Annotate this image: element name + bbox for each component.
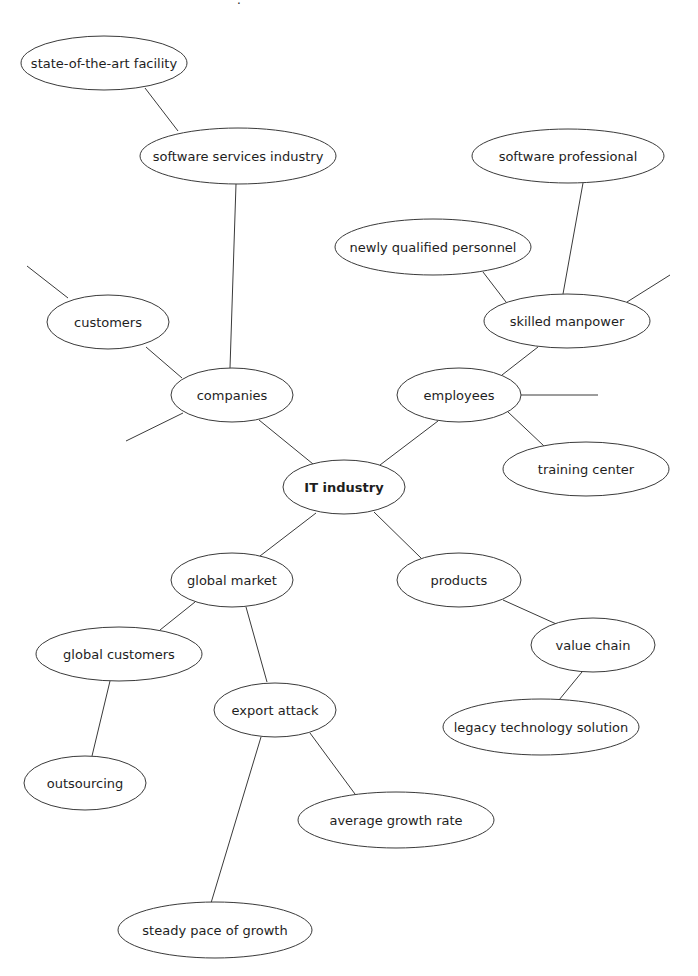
edge-employees-to-it-industry: [380, 421, 438, 465]
node-export-attack[interactable]: export attack: [214, 683, 336, 737]
node-label: employees: [424, 388, 495, 403]
node-label: global market: [187, 573, 277, 588]
node-employees[interactable]: employees: [397, 368, 521, 422]
node-it-industry[interactable]: IT industry: [283, 460, 405, 514]
node-legacy-technology-solution[interactable]: legacy technology solution: [443, 699, 639, 755]
node-global-market[interactable]: global market: [171, 553, 293, 607]
node-label: training center: [538, 462, 635, 477]
node-label: legacy technology solution: [454, 720, 629, 735]
edge-software-services-industry-to-companies: [230, 184, 236, 368]
node-label: newly qualified personnel: [350, 240, 517, 255]
mind-map-canvas: state-of-the-art facilitysoftware servic…: [0, 0, 698, 976]
node-label: skilled manpower: [510, 314, 625, 329]
node-training-center[interactable]: training center: [503, 442, 669, 496]
dangling-edge-customers: [27, 266, 68, 298]
node-label: customers: [74, 315, 142, 330]
node-state-of-the-art-facility[interactable]: state-of-the-art facility: [21, 36, 187, 90]
edge-newly-qualified-personnel-to-skilled-manpower: [483, 272, 506, 302]
dangling-edge-skilled-manpower: [627, 275, 670, 302]
cropped-text-fragment: ·: [237, 0, 241, 11]
edge-skilled-manpower-to-employees: [502, 347, 538, 375]
node-label: outsourcing: [47, 776, 124, 791]
node-label: software services industry: [153, 149, 324, 164]
edge-it-industry-to-global-market: [260, 513, 316, 556]
node-label: average growth rate: [329, 813, 462, 828]
node-label: steady pace of growth: [142, 923, 287, 938]
edge-global-customers-to-outsourcing: [92, 681, 110, 756]
edge-companies-to-it-industry: [259, 420, 313, 464]
node-skilled-manpower[interactable]: skilled manpower: [484, 294, 650, 348]
node-steady-pace-of-growth[interactable]: steady pace of growth: [118, 902, 312, 958]
node-label: companies: [197, 388, 268, 403]
node-average-growth-rate[interactable]: average growth rate: [298, 792, 494, 848]
edge-state-of-the-art-facility-to-software-services-industry: [145, 88, 178, 131]
node-customers[interactable]: customers: [47, 295, 169, 349]
node-global-customers[interactable]: global customers: [36, 627, 202, 681]
node-label: IT industry: [304, 480, 384, 495]
node-label: products: [431, 573, 488, 588]
edge-global-market-to-export-attack: [246, 607, 267, 682]
node-newly-qualified-personnel[interactable]: newly qualified personnel: [335, 219, 531, 275]
node-software-professional[interactable]: software professional: [472, 129, 664, 183]
node-outsourcing[interactable]: outsourcing: [24, 756, 146, 810]
node-label: state-of-the-art facility: [31, 56, 178, 71]
node-value-chain[interactable]: value chain: [531, 618, 655, 672]
dangling-edge-companies: [126, 413, 183, 441]
node-software-services-industry[interactable]: software services industry: [140, 128, 336, 184]
node-products[interactable]: products: [397, 553, 521, 607]
node-companies[interactable]: companies: [171, 368, 293, 422]
edge-it-industry-to-products: [374, 512, 421, 558]
nodes-layer: state-of-the-art facilitysoftware servic…: [21, 0, 669, 958]
edge-export-attack-to-steady-pace-of-growth: [211, 737, 261, 903]
edge-customers-to-companies: [146, 347, 182, 378]
edge-value-chain-to-legacy-technology-solution: [559, 672, 582, 700]
node-label: export attack: [231, 703, 319, 718]
node-label: global customers: [63, 647, 175, 662]
edge-global-market-to-global-customers: [160, 602, 195, 630]
edge-software-professional-to-skilled-manpower: [563, 183, 583, 294]
node-label: software professional: [499, 149, 638, 164]
edge-employees-to-training-center: [508, 412, 544, 446]
edge-products-to-value-chain: [503, 600, 563, 627]
edge-export-attack-to-average-growth-rate: [310, 733, 355, 794]
mind-map-diagram: state-of-the-art facilitysoftware servic…: [0, 0, 698, 976]
node-label: value chain: [556, 638, 631, 653]
